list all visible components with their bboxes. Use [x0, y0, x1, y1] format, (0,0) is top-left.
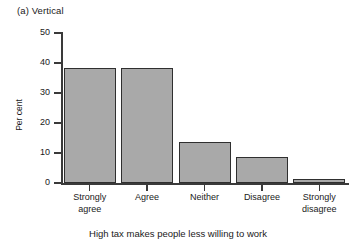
x-axis-category-label: Neither	[175, 192, 235, 204]
x-axis-tick	[204, 185, 206, 191]
x-axis-category-label-line: Neither	[175, 192, 235, 204]
y-axis-tick-label: 30	[28, 88, 50, 97]
x-axis-category-label: Stronglydisagree	[289, 192, 349, 215]
y-axis-tick-label: 40	[28, 58, 50, 67]
y-axis-tick-label: 0	[28, 178, 50, 187]
bar	[179, 142, 231, 183]
y-axis-tick	[54, 62, 61, 64]
x-axis-tick	[146, 185, 148, 191]
x-axis-tick	[261, 185, 263, 191]
x-axis-title: High tax makes people less willing to wo…	[0, 228, 356, 239]
y-axis-tick	[54, 122, 61, 124]
y-axis-tick-label: 20	[28, 118, 50, 127]
panel-title: (a) Vertical	[17, 5, 64, 16]
y-axis-tick	[54, 152, 61, 154]
x-axis-category-label-line: agree	[60, 204, 120, 216]
x-axis-category-label: Stronglyagree	[60, 192, 120, 215]
y-axis-tick	[54, 32, 61, 34]
x-axis-category-label-line: Agree	[117, 192, 177, 204]
y-axis-tick-label: 50	[28, 28, 50, 37]
y-axis-tick	[54, 182, 61, 184]
x-axis-category-label-line: Disagree	[232, 192, 292, 204]
y-axis-tick	[54, 92, 61, 94]
bar-chart-figure: (a) Vertical 01020304050 Per cent Strong…	[0, 0, 356, 248]
x-axis-category-label: Agree	[117, 192, 177, 204]
bar	[236, 157, 288, 183]
x-axis-tick	[89, 185, 91, 191]
x-axis-category-label-line: Strongly	[289, 192, 349, 204]
x-axis-tick	[319, 185, 321, 191]
bar	[121, 68, 173, 183]
y-axis-line	[61, 32, 63, 184]
bar	[293, 179, 345, 184]
x-axis-category-label: Disagree	[232, 192, 292, 204]
x-axis-category-label-line: Strongly	[60, 192, 120, 204]
x-axis-category-label-line: disagree	[289, 204, 349, 216]
y-axis-title: Per cent	[14, 85, 24, 145]
y-axis-tick-label: 10	[28, 148, 50, 157]
bar	[64, 68, 116, 184]
